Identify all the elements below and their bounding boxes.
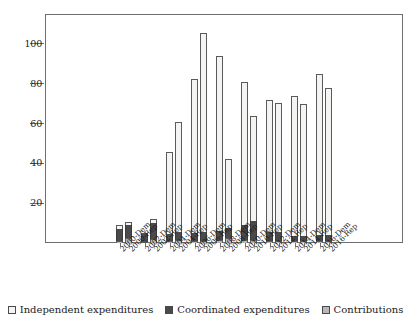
legend-item-independent-expenditures: Independent expenditures (8, 305, 154, 315)
legend-label-coordinated: Coordinated expenditures (177, 305, 309, 315)
bar-chart: 20406080100 2000-Dem2000-Rep2002-Dem2002… (0, 0, 411, 325)
bar-segment-indep (266, 100, 273, 232)
bar (191, 79, 198, 243)
bar-segment-indep (225, 159, 232, 228)
bar-segment-indep (300, 104, 307, 236)
chart-legend: Independent expenditures Coordinated exp… (0, 305, 411, 315)
bar-segment-indep (191, 79, 198, 233)
bar-segment-indep (250, 116, 257, 222)
bar-segment-indep (325, 88, 332, 235)
bar (200, 33, 207, 243)
bar (325, 88, 332, 243)
bar-segment-indep (316, 74, 323, 235)
bar-segment-indep (291, 96, 298, 236)
legend-label-independent: Independent expenditures (20, 305, 154, 315)
bars-layer (0, 0, 411, 325)
legend-item-contributions: Contributions (322, 305, 404, 315)
bar (116, 225, 123, 243)
bar-segment-indep (216, 56, 223, 231)
bar (241, 82, 248, 243)
legend-swatch-contributions-icon (322, 306, 330, 314)
bar-segment-coord (116, 229, 123, 241)
legend-item-coordinated-expenditures: Coordinated expenditures (165, 305, 309, 315)
bar (316, 74, 323, 243)
legend-label-contributions: Contributions (334, 305, 404, 315)
bar-segment-indep (200, 33, 207, 232)
bar-segment-indep (175, 122, 182, 233)
legend-swatch-coordinated-icon (165, 306, 173, 314)
bar-segment-indep (275, 103, 282, 232)
bar-segment-indep (241, 82, 248, 225)
bar (216, 56, 223, 243)
legend-swatch-independent-icon (8, 306, 16, 314)
